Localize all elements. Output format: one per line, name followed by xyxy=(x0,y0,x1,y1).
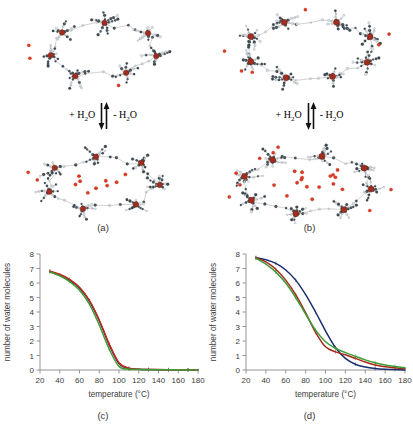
x-tick-label: 120 xyxy=(339,376,353,385)
molecular-structure-a-hydrated xyxy=(0,138,206,223)
panel-c: 20406080100120140160180012345678temperat… xyxy=(0,240,206,436)
x-tick-label: 20 xyxy=(36,376,45,385)
y-tick-label: 3 xyxy=(30,323,35,332)
y-tick-label: 1 xyxy=(236,352,241,361)
series-line-3 xyxy=(50,272,198,370)
y-tick-label: 3 xyxy=(236,323,241,332)
molecular-structure-b-hydrated xyxy=(206,136,413,224)
molecular-structure-b-anhydrous xyxy=(206,0,413,95)
panel-caption-d: (d) xyxy=(206,410,413,421)
panel-caption-c: (c) xyxy=(0,410,206,421)
reaction-label-dehydration-b: - H2O xyxy=(320,110,344,123)
x-tick-label: 80 xyxy=(301,376,310,385)
arrow-down-icon xyxy=(99,103,105,130)
x-tick-label: 40 xyxy=(261,376,270,385)
y-tick-label: 8 xyxy=(236,250,241,259)
outer-water-molecules xyxy=(27,171,39,182)
outer-water-molecules xyxy=(27,44,120,87)
panel-a: + H2O - H2O (a) xyxy=(0,0,206,240)
x-tick-label: 60 xyxy=(75,376,84,385)
reaction-arrow-a: + H2O - H2O xyxy=(0,96,206,136)
molecule-cluster xyxy=(236,144,385,224)
equilibrium-arrows-a xyxy=(97,101,111,131)
reaction-label-dehydration-a: - H2O xyxy=(113,110,137,123)
y-tick-label: 0 xyxy=(30,366,35,375)
y-tick-label: 4 xyxy=(30,308,35,317)
y-tick-label: 5 xyxy=(30,294,35,303)
water-molecules xyxy=(74,173,127,195)
molecule-cluster xyxy=(35,145,170,220)
y-tick-label: 7 xyxy=(236,265,241,274)
y-tick-label: 8 xyxy=(30,250,35,259)
y-tick-label: 0 xyxy=(236,366,241,375)
x-tick-label: 160 xyxy=(378,376,392,385)
chart-c-water-loss: 20406080100120140160180012345678temperat… xyxy=(0,240,206,410)
equilibrium-arrows-b xyxy=(304,101,318,131)
arrow-up-icon xyxy=(104,102,110,129)
series-line-3 xyxy=(256,258,405,367)
chart-d-water-loss: 20406080100120140160180012345678temperat… xyxy=(206,240,413,410)
water-molecules xyxy=(272,168,344,201)
y-axis-title: number of water molecules xyxy=(3,263,12,361)
molecular-structure-a-anhydrous xyxy=(0,0,206,95)
x-tick-label: 100 xyxy=(319,376,333,385)
x-tick-label: 180 xyxy=(191,376,205,385)
x-tick-label: 60 xyxy=(281,376,290,385)
x-tick-label: 140 xyxy=(152,376,166,385)
y-tick-label: 6 xyxy=(30,279,35,288)
panel-b: + H2O - H2O (b) xyxy=(206,0,413,240)
x-tick-label: 40 xyxy=(55,376,64,385)
reaction-arrow-b: + H2O - H2O xyxy=(206,96,413,136)
x-tick-label: 20 xyxy=(242,376,251,385)
y-tick-label: 7 xyxy=(30,265,35,274)
series-line-1 xyxy=(50,271,198,370)
x-axis-title: temperature (°C) xyxy=(295,390,356,399)
panel-caption-b: (b) xyxy=(206,222,413,233)
molecule-cluster xyxy=(43,11,172,89)
x-tick-label: 180 xyxy=(398,376,412,385)
panel-d: 20406080100120140160180012345678temperat… xyxy=(206,240,413,436)
figure-root: + H2O - H2O (a) + H2O xyxy=(0,0,413,436)
reaction-label-hydration-a: + H2O xyxy=(69,110,95,123)
y-tick-label: 2 xyxy=(30,337,35,346)
x-tick-label: 100 xyxy=(112,376,126,385)
arrow-up-icon xyxy=(310,102,316,129)
x-tick-label: 80 xyxy=(95,376,104,385)
x-tick-label: 140 xyxy=(359,376,373,385)
arrow-down-icon xyxy=(305,103,311,130)
y-tick-label: 1 xyxy=(30,352,35,361)
molecule-cluster xyxy=(239,10,382,91)
x-axis-title: temperature (°C) xyxy=(88,390,149,399)
y-tick-label: 6 xyxy=(236,279,241,288)
series-line-2 xyxy=(50,271,198,370)
reaction-label-hydration-b: + H2O xyxy=(276,110,302,123)
x-tick-label: 160 xyxy=(172,376,186,385)
panel-caption-a: (a) xyxy=(0,222,206,233)
y-axis-title: number of water molecules xyxy=(209,263,218,361)
y-tick-label: 5 xyxy=(236,294,241,303)
y-tick-label: 2 xyxy=(236,337,241,346)
x-tick-label: 120 xyxy=(132,376,146,385)
y-tick-label: 4 xyxy=(236,308,241,317)
